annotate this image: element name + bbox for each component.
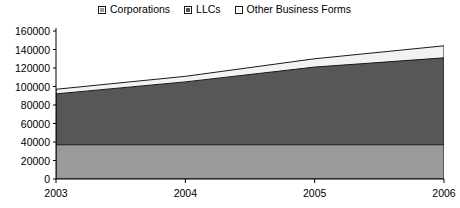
x-tick-label: 2005: [289, 188, 341, 199]
x-tick-label: 2006: [418, 188, 460, 199]
x-tick-label: 2004: [159, 188, 211, 199]
x-tick-label: 2003: [30, 188, 82, 199]
